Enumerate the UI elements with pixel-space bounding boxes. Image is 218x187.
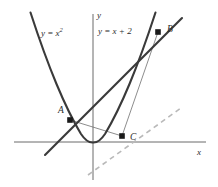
point-label-a: A <box>58 106 64 116</box>
point-marker-a <box>67 117 73 123</box>
point-label-c: C <box>130 133 136 143</box>
figure-canvas: y = x2 y = x + 2 A B C x y <box>0 0 218 187</box>
secant-line <box>45 18 182 155</box>
parabola-equation-text: y = x <box>41 28 60 38</box>
y-axis-label: y <box>97 11 101 20</box>
parabola-equation-exponent: 2 <box>60 26 63 33</box>
point-marker-b <box>155 29 161 35</box>
secant-equation-label: y = x + 2 <box>98 27 132 36</box>
point-label-b: B <box>167 25 173 35</box>
x-axis-label: x <box>197 148 201 157</box>
parabola-equation-label: y = x2 <box>41 27 63 38</box>
point-marker-c <box>119 133 125 139</box>
